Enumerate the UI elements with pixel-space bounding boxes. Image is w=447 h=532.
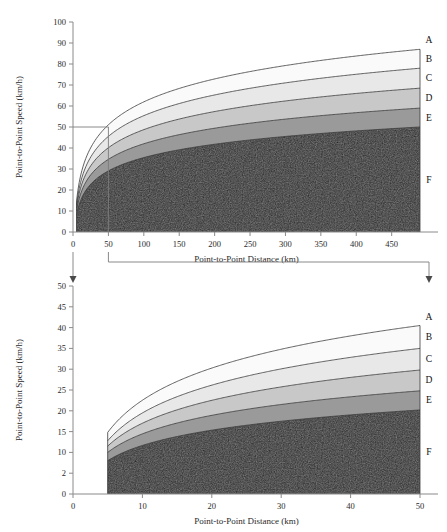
x-tick-label: 0 xyxy=(71,239,75,249)
figure-container: 0102030405060708090100050100150200250300… xyxy=(0,0,447,532)
band-label-A: A xyxy=(426,35,433,45)
y-axis-title: Point-to-Point Speed (km/h) xyxy=(14,76,24,178)
y-tick-label: 50 xyxy=(58,122,67,132)
y-tick-label: 60 xyxy=(58,101,67,111)
y-tick-label: 2 xyxy=(62,468,66,478)
y-tick-label: 80 xyxy=(58,59,67,69)
band-label-D: D xyxy=(426,93,433,103)
chart-panel-top: 0102030405060708090100050100150200250300… xyxy=(14,17,438,264)
x-tick-label: 100 xyxy=(137,239,150,249)
x-tick-label: 30 xyxy=(277,501,286,511)
band-label-F: F xyxy=(426,447,431,457)
y-tick-label: 20 xyxy=(58,185,67,195)
x-tick-label: 200 xyxy=(208,239,221,249)
y-tick-label: 30 xyxy=(58,164,67,174)
y-tick-label: 0 xyxy=(62,227,66,237)
band-label-B: B xyxy=(426,332,432,342)
y-tick-label: 100 xyxy=(53,17,66,27)
y-tick-label: 10 xyxy=(58,206,67,216)
band-label-C: C xyxy=(426,354,432,364)
x-tick-label: 350 xyxy=(314,239,327,249)
y-tick-label: 40 xyxy=(58,323,67,333)
x-tick-label: 400 xyxy=(350,239,363,249)
y-tick-label: 50 xyxy=(58,281,67,291)
x-axis-title: Point-to-Point Distance (km) xyxy=(194,516,299,526)
x-tick-label: 0 xyxy=(71,501,75,511)
x-tick-label: 150 xyxy=(173,239,186,249)
y-tick-label: 70 xyxy=(58,80,67,90)
band-label-B: B xyxy=(426,54,432,64)
y-tick-label: 90 xyxy=(58,38,67,48)
band-label-A: A xyxy=(426,312,433,322)
y-tick-label: 30 xyxy=(58,364,67,374)
callout-arrow-left xyxy=(70,276,77,283)
y-tick-label: 10 xyxy=(58,447,67,457)
x-tick-label: 40 xyxy=(346,501,355,511)
y-tick-label: 45 xyxy=(58,302,67,312)
y-tick-label: 0 xyxy=(62,489,66,499)
x-tick-label: 300 xyxy=(279,239,292,249)
band-label-D: D xyxy=(426,375,433,385)
y-tick-label: 35 xyxy=(58,343,67,353)
y-tick-label: 15 xyxy=(58,427,67,437)
chart-panel-bottom: 0210152025303540455001020304050Point-to-… xyxy=(14,281,438,526)
callout-arrow-right xyxy=(426,276,433,283)
band-label-E: E xyxy=(426,395,432,405)
band-label-E: E xyxy=(426,113,432,123)
x-tick-label: 20 xyxy=(208,501,217,511)
stacked-area-figure: 0102030405060708090100050100150200250300… xyxy=(0,0,447,532)
band-label-C: C xyxy=(426,73,432,83)
x-axis-title: Point-to-Point Distance (km) xyxy=(194,254,299,264)
x-tick-label: 50 xyxy=(104,239,113,249)
x-tick-label: 450 xyxy=(385,239,398,249)
y-tick-label: 40 xyxy=(58,143,67,153)
x-tick-label: 50 xyxy=(416,501,425,511)
y-axis-title: Point-to-Point Speed (km/h) xyxy=(14,339,24,441)
x-tick-label: 10 xyxy=(138,501,147,511)
y-tick-label: 20 xyxy=(58,406,67,416)
y-tick-label: 25 xyxy=(58,385,67,395)
x-tick-label: 250 xyxy=(244,239,257,249)
band-label-F: F xyxy=(426,175,431,185)
